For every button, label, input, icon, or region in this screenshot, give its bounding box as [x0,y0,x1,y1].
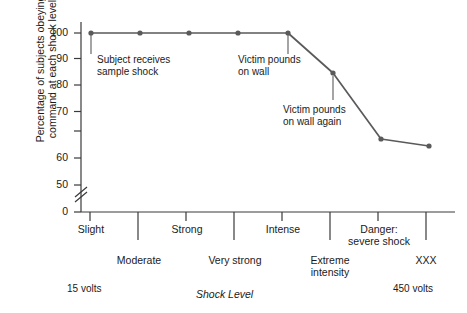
x-category-label-danger-severe-shock: Danger: severe shock [340,224,418,247]
x-category-label-moderate: Moderate [107,255,171,267]
x-endpoint-label-15-volts: 15 volts [67,283,101,295]
x-category-label-intense: Intense [252,224,314,236]
x-category-label-slight: Slight [60,224,122,236]
y-axis-ticks [74,33,81,212]
x-category-label-strong: Strong [156,224,218,236]
data-point [378,136,383,141]
y-tick-label-0: 0 [42,206,68,218]
data-point [330,70,335,75]
x-category-label-xxx: XXX [400,255,452,267]
x-axis-title: Shock Level [196,289,253,301]
y-tick-label-50: 50 [42,179,68,191]
data-point-markers [88,30,431,148]
data-point [88,30,93,35]
x-category-label-very-strong: Very strong [199,255,271,267]
annotation-victim-pounds-on-wall: Victim pounds on wall [238,54,301,77]
data-series-line [91,33,429,146]
x-endpoint-label-450-volts: 450 volts [393,283,433,295]
data-point [186,30,191,35]
x-category-label-extreme-intensity: Extreme intensity [297,255,363,278]
chart-figure: 100 90 80 70 60 50 0 Percentage of subje… [0,0,467,313]
annotation-subject-receives-sample-shock: Subject receives sample shock [97,54,170,77]
data-point [426,143,431,148]
data-point [137,30,142,35]
annotation-victim-pounds-on-wall-again: Victim pounds on wall again [283,104,346,127]
data-point [285,30,290,35]
y-axis-title-text: Percentage of subjects obeying command a… [34,0,58,159]
data-point [235,30,240,35]
y-axis-title: Percentage of subjects obeying command a… [34,0,58,159]
